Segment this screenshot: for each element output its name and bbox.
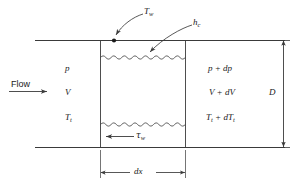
diameter-dimension <box>276 41 290 148</box>
upper-wavy-boundary-line <box>101 56 186 59</box>
outlet-total-temperature-delta: + dT <box>213 112 233 122</box>
inlet-total-temperature-label: Tt <box>65 113 72 122</box>
lower-wavy-boundary-line <box>101 123 186 126</box>
diameter-label: D <box>269 88 276 97</box>
wall-temperature-label: Tw <box>144 7 153 16</box>
figure-canvas: Tw hc Flow p V Tt p + dp V + dV Tt + dTt… <box>0 0 297 187</box>
outlet-pressure-label: p + dp <box>208 64 232 73</box>
wall-shear-stress-label: τw <box>136 131 145 140</box>
outlet-total-temperature-label: Tt + dTt <box>206 113 235 122</box>
outlet-total-temperature-subscript: t <box>211 116 213 123</box>
heat-transfer-coefficient-label: hc <box>193 18 200 27</box>
outlet-velocity-label: V + dV <box>209 88 235 97</box>
flow-label: Flow <box>11 80 30 89</box>
duct-diagram-svg <box>0 0 297 187</box>
length-increment-label: dx <box>134 167 143 176</box>
wall-temperature-subscript: w <box>149 10 153 17</box>
heat-transfer-coefficient-symbol: h <box>193 17 198 27</box>
wall-shear-stress-subscript: w <box>141 134 145 141</box>
length-increment-dimension <box>101 150 186 178</box>
wall-shear-stress-symbol: τ <box>136 130 141 140</box>
inlet-total-temperature-subscript: t <box>70 116 72 123</box>
heat-transfer-coefficient-subscript: c <box>198 21 201 28</box>
inlet-velocity-label: V <box>65 88 71 97</box>
wall-temperature-leader-arrow <box>112 14 143 43</box>
inlet-pressure-label: p <box>65 64 70 73</box>
outlet-total-temperature-delta-subscript: t <box>233 116 235 123</box>
